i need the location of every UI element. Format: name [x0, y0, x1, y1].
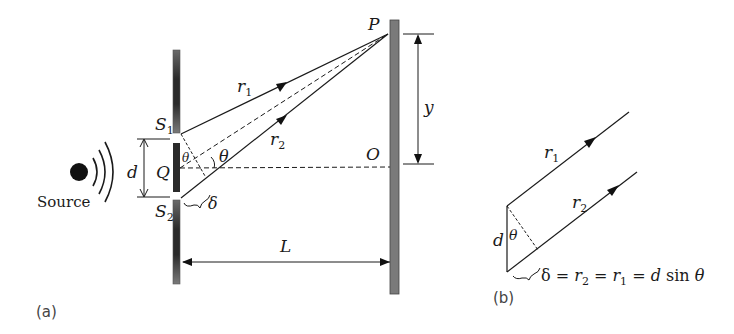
- r1-arrowhead: [276, 82, 287, 92]
- caption-a: (a): [36, 303, 57, 321]
- screen: [390, 20, 399, 294]
- source-dot: [70, 163, 88, 181]
- theta-small: θ: [182, 151, 190, 165]
- q-label: Q: [156, 162, 170, 182]
- source-label: Source: [37, 193, 91, 211]
- b-d-label: d: [493, 230, 504, 250]
- p-label: P: [367, 14, 380, 34]
- delta-brace: [184, 195, 210, 208]
- y-label: y: [423, 97, 434, 117]
- s1-label: S1: [155, 114, 174, 137]
- barrier-bottom: [173, 200, 180, 284]
- wave-arcs-icon: [93, 142, 113, 202]
- theta-arc: [211, 157, 215, 168]
- s2-label: S2: [155, 201, 174, 224]
- double-slit-diagram: Source d Q S1 S2 δ θ θ: [0, 0, 734, 334]
- panel-a: Source d Q S1 S2 δ θ θ: [36, 14, 434, 321]
- panel-b: r1 r2 d θ δ = r2 = r1 = d sin θ (b): [493, 112, 705, 307]
- o-label: O: [366, 144, 380, 164]
- b-r1-label: r1: [544, 142, 559, 165]
- b-r2-label: r2: [572, 192, 587, 215]
- delta-label: δ: [208, 194, 218, 213]
- theta-label: θ: [219, 147, 229, 166]
- barrier-top: [173, 50, 180, 133]
- b-r1-arrowhead: [584, 137, 596, 148]
- b-delta-brace: [513, 268, 540, 280]
- center-axis: [180, 167, 390, 168]
- r2-arrowhead: [276, 115, 287, 125]
- r1-label: r1: [237, 76, 252, 99]
- barrier-middle: [173, 143, 180, 192]
- b-equation: δ = r2 = r1 = d sin θ: [541, 266, 705, 288]
- d-label: d: [127, 162, 138, 182]
- caption-b: (b): [493, 289, 514, 307]
- l-label: L: [279, 236, 291, 256]
- r2-label: r2: [270, 129, 285, 152]
- b-theta-label: θ: [509, 227, 518, 243]
